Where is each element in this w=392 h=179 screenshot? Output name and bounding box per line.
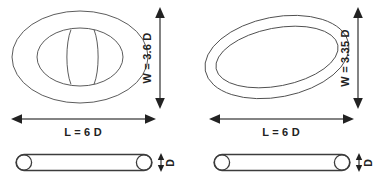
right-thickness-label: D bbox=[362, 159, 374, 167]
left-width-label: W = 3.6 D bbox=[141, 32, 153, 83]
left-inner-ellipse bbox=[37, 28, 123, 86]
right-length-label: L = 6 D bbox=[262, 126, 300, 138]
left-tube-end-left bbox=[16, 155, 31, 170]
left-waist-curve-right bbox=[94, 30, 98, 85]
left-outer-ellipse bbox=[12, 11, 148, 103]
left-panel: W = 3.6 D L = 6 D D bbox=[11, 7, 176, 172]
left-width-dimension: W = 3.6 D bbox=[141, 7, 165, 109]
left-length-dimension: L = 6 D bbox=[11, 114, 156, 138]
right-inner-ellipse bbox=[211, 17, 344, 98]
right-panel: W = 3.35 D L = 6 D D bbox=[198, 4, 374, 172]
left-side-view bbox=[16, 155, 152, 171]
left-length-label: L = 6 D bbox=[64, 126, 102, 138]
right-length-dimension: L = 6 D bbox=[209, 114, 354, 138]
right-tube-end-right bbox=[334, 155, 349, 170]
left-thickness-label: D bbox=[164, 159, 176, 167]
diagram-root: W = 3.6 D L = 6 D D bbox=[0, 0, 392, 179]
right-outer-ellipse bbox=[198, 4, 357, 110]
right-width-label: W = 3.35 D bbox=[339, 29, 351, 86]
right-tube-end-left bbox=[214, 155, 229, 170]
left-tube-body bbox=[16, 155, 152, 171]
right-thickness-dimension: D bbox=[356, 153, 374, 172]
left-thickness-dimension: D bbox=[158, 153, 176, 172]
left-tube-end-right bbox=[136, 155, 151, 170]
right-tube-body bbox=[214, 155, 350, 171]
right-width-dimension: W = 3.35 D bbox=[339, 7, 363, 109]
right-side-view bbox=[214, 155, 350, 171]
left-waist-curve-left bbox=[67, 30, 71, 85]
